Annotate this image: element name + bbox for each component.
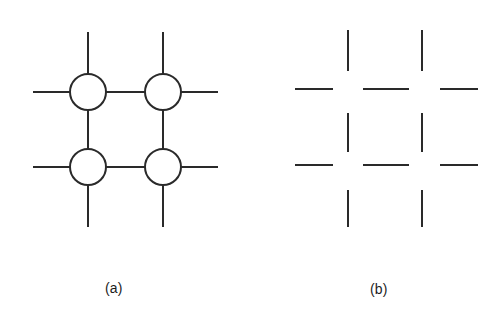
panel-a-caption: (a) <box>105 280 123 296</box>
node-top-right <box>145 74 181 110</box>
figure-container: (a) (b) <box>0 0 503 311</box>
node-bottom-left <box>70 149 106 185</box>
figure-canvas <box>0 0 503 311</box>
node-top-left <box>70 74 106 110</box>
node-bottom-right <box>145 149 181 185</box>
panel-b-caption: (b) <box>370 281 388 297</box>
